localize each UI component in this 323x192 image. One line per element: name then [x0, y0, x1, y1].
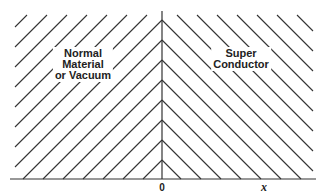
- hatch-line: [277, 15, 313, 51]
- hatch-line: [15, 15, 47, 47]
- hatch-line: [162, 60, 281, 179]
- hatch-line: [162, 20, 313, 171]
- hatch-line: [162, 160, 181, 179]
- origin-label: 0: [159, 182, 165, 192]
- hatch-line: [162, 140, 201, 179]
- normal-material-label: Normal Material or Vacuum: [53, 47, 113, 82]
- x-axis-label: x: [261, 180, 267, 192]
- interface-diagram: [0, 0, 323, 192]
- hatch-line: [83, 100, 162, 179]
- hatch-line: [15, 15, 27, 27]
- superconductor-line-2: Conductor: [213, 59, 269, 70]
- hatch-line: [63, 80, 162, 179]
- superconductor-label: Super Conductor: [211, 47, 271, 71]
- hatch-line: [143, 160, 162, 179]
- hatch-line: [15, 20, 162, 167]
- left-region-hatching: [15, 15, 162, 179]
- hatch-line: [162, 100, 241, 179]
- hatch-line: [177, 15, 313, 151]
- hatch-line: [162, 80, 261, 179]
- hatch-line: [297, 15, 313, 31]
- hatch-line: [123, 140, 162, 179]
- normal-material-line-3: or Vacuum: [55, 70, 111, 81]
- right-region-hatching: [162, 15, 313, 179]
